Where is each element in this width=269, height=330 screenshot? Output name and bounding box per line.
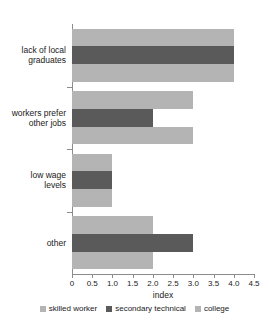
legend-label: college xyxy=(204,304,229,313)
x-axis-tick-label: 1.0 xyxy=(107,279,118,288)
legend-swatch-icon xyxy=(40,306,46,312)
x-axis-tick-label: 0 xyxy=(70,279,74,288)
bar-row xyxy=(72,91,254,109)
y-axis-tick xyxy=(67,149,72,150)
x-axis-title: index xyxy=(72,290,254,300)
bar-group xyxy=(72,29,254,83)
x-axis-tick-label: 3.5 xyxy=(208,279,219,288)
bar-group xyxy=(72,154,254,208)
x-axis-line xyxy=(72,274,254,275)
x-axis-tick-label: 3.0 xyxy=(188,279,199,288)
legend-item[interactable]: secondary technical xyxy=(106,304,186,313)
x-axis-tick xyxy=(193,274,194,278)
bar-row xyxy=(72,64,254,82)
bar-row xyxy=(72,171,254,189)
legend-item[interactable]: college xyxy=(195,304,229,313)
bar-row xyxy=(72,252,254,270)
bar xyxy=(72,91,193,109)
x-axis-tick xyxy=(254,274,255,278)
legend-swatch-icon xyxy=(106,306,112,312)
x-axis-tick-label: 1.5 xyxy=(127,279,138,288)
legend-label: secondary technical xyxy=(115,304,186,313)
bar-row xyxy=(72,154,254,172)
bar xyxy=(72,109,153,127)
legend-swatch-icon xyxy=(195,306,201,312)
bar xyxy=(72,64,234,82)
category-label: lack of localgraduates xyxy=(2,45,66,65)
bar-row xyxy=(72,127,254,145)
bar xyxy=(72,171,112,189)
category-label-line: graduates xyxy=(2,55,66,65)
x-axis-tick-label: 0.5 xyxy=(87,279,98,288)
bar-row xyxy=(72,216,254,234)
bar xyxy=(72,189,112,207)
bar xyxy=(72,252,153,270)
x-axis-tick-label: 4.5 xyxy=(248,279,259,288)
x-axis-tick xyxy=(153,274,154,278)
legend-item[interactable]: skilled worker xyxy=(40,304,97,313)
category-label-line: other jobs xyxy=(2,118,66,128)
x-axis-tick xyxy=(234,274,235,278)
x-axis-tick xyxy=(112,274,113,278)
x-axis-tick-label: 4.0 xyxy=(228,279,239,288)
bar xyxy=(72,216,153,234)
bar xyxy=(72,46,234,64)
legend-label: skilled worker xyxy=(49,304,97,313)
x-axis-tick xyxy=(92,274,93,278)
x-axis-tick xyxy=(133,274,134,278)
category-label-line: levels xyxy=(2,180,66,190)
x-axis-tick xyxy=(173,274,174,278)
category-label: workers preferother jobs xyxy=(2,108,66,128)
x-axis-tick-label: 2.0 xyxy=(147,279,158,288)
x-axis-tick xyxy=(214,274,215,278)
bar-row xyxy=(72,234,254,252)
bar xyxy=(72,234,193,252)
bar-row xyxy=(72,29,254,47)
y-axis-tick xyxy=(67,87,72,88)
y-axis-tick xyxy=(67,212,72,213)
bar-row xyxy=(72,46,254,64)
bar-row xyxy=(72,109,254,127)
bar-chart: lack of localgraduatesworkers preferothe… xyxy=(0,0,269,330)
plot-area xyxy=(72,24,254,274)
bar xyxy=(72,154,112,172)
category-label-line: other xyxy=(2,238,66,248)
category-label: other xyxy=(2,238,66,248)
category-label-line: workers prefer xyxy=(2,108,66,118)
category-label-line: lack of local xyxy=(2,45,66,55)
category-label-line: low wage xyxy=(2,170,66,180)
x-axis-tick xyxy=(72,274,73,278)
category-label: low wagelevels xyxy=(2,170,66,190)
bar xyxy=(72,29,234,47)
bar xyxy=(72,127,193,145)
bar-row xyxy=(72,189,254,207)
bar-group xyxy=(72,216,254,270)
x-axis-tick-label: 2.5 xyxy=(168,279,179,288)
chart-legend: skilled workersecondary technicalcollege xyxy=(0,304,269,313)
bar-group xyxy=(72,91,254,145)
